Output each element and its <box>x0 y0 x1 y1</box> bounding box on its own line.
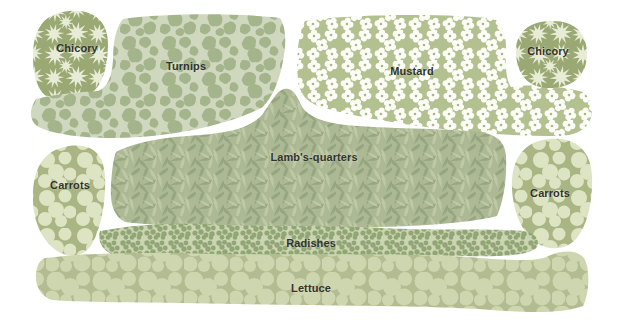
patch-carrots-left <box>33 146 105 256</box>
patch-chicory-left <box>33 11 108 102</box>
patch-lettuce <box>36 252 589 312</box>
garden-illustration-canvas <box>0 0 625 329</box>
patch-chicory-right <box>516 21 587 88</box>
garden-plot-illustration: Chicory Turnips Mustard Chicory Carrots … <box>0 0 625 329</box>
